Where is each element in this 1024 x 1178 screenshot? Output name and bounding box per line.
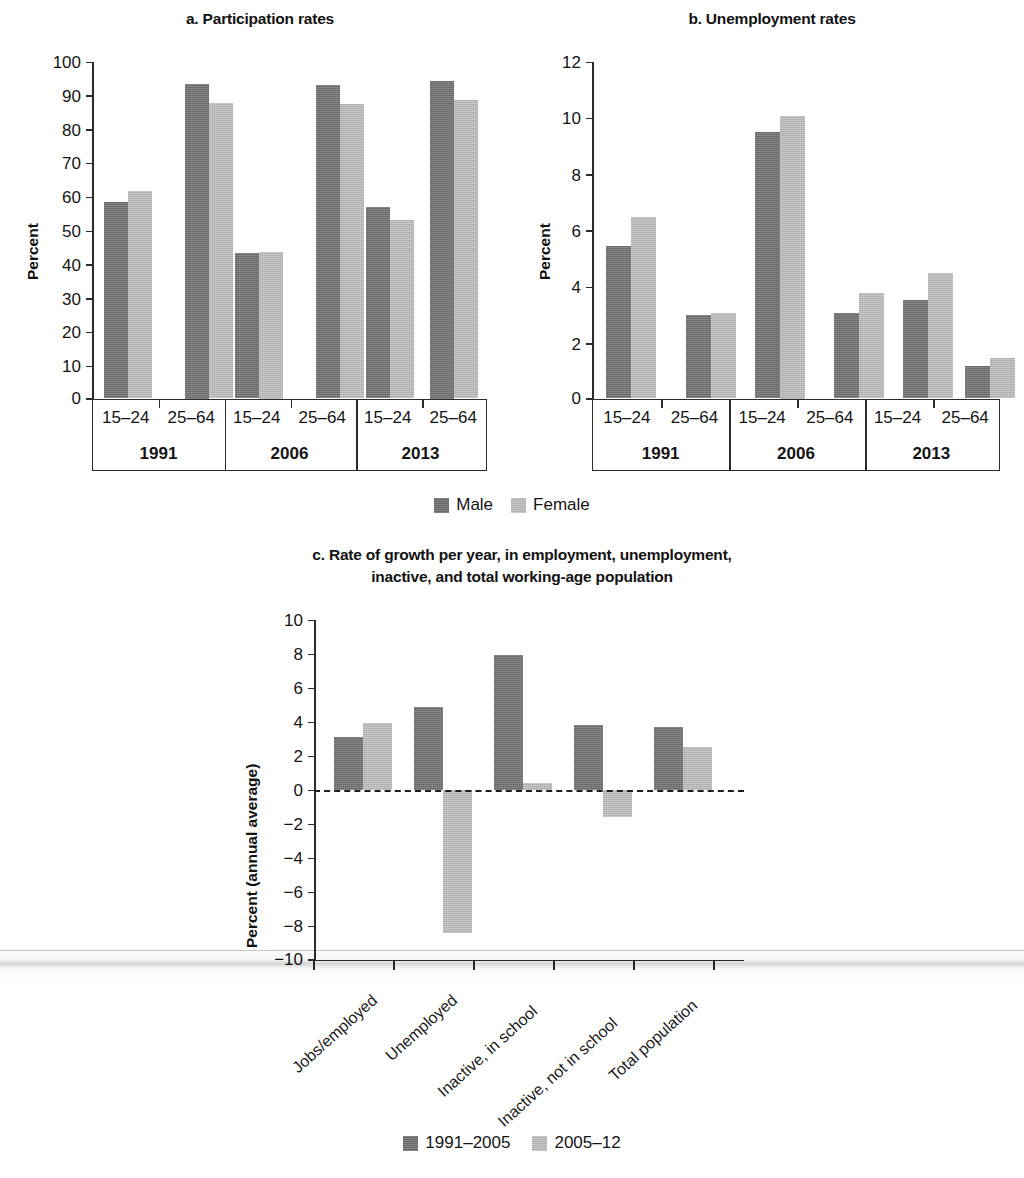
panel-a-category-table: 15–24 25–64 15–24 25–64 15–24 25–64 1991… (92, 399, 487, 471)
panel-a-tick (86, 264, 93, 266)
bar-a-female-2013-15-24 (390, 220, 414, 399)
panel-c-tick (308, 722, 315, 724)
panel-a-group-label: 2013 (355, 437, 486, 471)
panel-c-tick (308, 620, 315, 622)
panel-a-y-tick-label: 30 (36, 291, 81, 308)
panel-c-y-tick-label: −10 (254, 951, 303, 968)
panel-a-y-tick-label: 80 (36, 122, 81, 139)
panel-b-group-label: 1991 (593, 437, 728, 471)
panel-b-tick (586, 62, 593, 64)
legend-swatch-1991-2005-icon (403, 1136, 418, 1151)
scan-artifact-band (0, 946, 1024, 980)
legend-male-female: Male Female (362, 492, 662, 518)
panel-b-y-tick-label: 4 (542, 279, 581, 296)
panel-b-cat-label: 25–64 (796, 399, 864, 437)
panel-rate-of-growth: c. Rate of growth per year, in employmen… (0, 530, 1024, 1178)
panel-b-category-table: 15–24 25–64 15–24 25–64 15–24 25–64 1991… (592, 399, 1000, 471)
panel-b-cat-label: 15–24 (728, 399, 796, 437)
panel-a-cat-label: 15–24 (355, 399, 421, 437)
panel-b-y-tick-label: 10 (542, 110, 581, 127)
panel-a-cat-label: 25–64 (290, 399, 356, 437)
panel-c-tick (308, 688, 315, 690)
bar-c-1991-2005-unemployed (414, 707, 443, 790)
panel-a-y-tick-label: 40 (36, 257, 81, 274)
panel-b-y-tick-label: 6 (542, 223, 581, 240)
panel-c-y-tick-label: −6 (258, 884, 303, 901)
bar-a-male-2013-15-24 (366, 207, 390, 398)
panel-c-x-axis (314, 960, 744, 962)
panel-b-y-tick-label: 2 (542, 336, 581, 353)
panel-a-y-tick-label: 90 (36, 88, 81, 105)
bar-a-male-2006-25-64 (316, 85, 340, 399)
panel-b-cat-label: 15–24 (864, 399, 932, 437)
panel-c-plot-area: 10 8 6 4 2 0 −2 −4 −6 −8 −10 (0, 530, 1024, 1178)
legend-item-1991-2005[interactable]: 1991–2005 (403, 1133, 510, 1153)
panel-b-y-tick-label: 8 (542, 167, 581, 184)
panel-a-subdivider (291, 399, 293, 408)
legend-label-male: Male (456, 495, 493, 515)
bar-b-female-2013-25-64 (990, 358, 1015, 399)
panel-a-tick (86, 197, 93, 199)
legend-swatch-2005-12-icon (532, 1136, 547, 1151)
panel-c-x-tick (393, 960, 395, 970)
panel-b-tick (586, 118, 593, 120)
panel-c-tick (308, 654, 315, 656)
panel-c-y-tick-label: −2 (258, 816, 303, 833)
panel-b-cat-label: 15–24 (593, 399, 661, 437)
panel-b-subdivider (797, 399, 799, 408)
panel-b-subdivider (661, 399, 663, 408)
panel-a-y-tick-label: 70 (36, 155, 81, 172)
bar-c-1991-2005-inactive-in-school (494, 655, 523, 790)
panel-a-tick (86, 95, 93, 97)
bar-a-female-1991-25-64 (209, 103, 233, 399)
panel-participation-rates: a. Participation rates Percent 100 90 80… (0, 0, 512, 480)
panel-b-group-divider (729, 399, 731, 471)
panel-c-y-tick-label: 8 (258, 646, 303, 663)
bar-a-male-1991-25-64 (185, 84, 209, 399)
bar-c-1991-2005-total-population (654, 727, 683, 790)
panel-a-tick (86, 298, 93, 300)
bar-a-female-2006-15-24 (259, 252, 283, 399)
bar-c-2005-12-jobs-employed (363, 723, 392, 790)
bar-b-male-2013-15-24 (903, 300, 928, 399)
bar-a-male-2006-15-24 (235, 253, 259, 399)
panel-c-x-tick (633, 960, 635, 970)
panel-b-tick (586, 343, 593, 345)
panel-c-zero-line (314, 790, 744, 792)
legend-swatch-female-icon (511, 498, 526, 513)
panel-a-group-label: 2006 (224, 437, 355, 471)
panel-a-y-tick-label: 10 (36, 358, 81, 375)
panel-a-tick (86, 163, 93, 165)
bar-b-male-2006-15-24 (755, 132, 780, 398)
panel-b-group-divider (865, 399, 867, 471)
bar-b-female-1991-25-64 (711, 313, 736, 399)
legend-item-2005-12[interactable]: 2005–12 (532, 1133, 620, 1153)
panel-b-tick (586, 230, 593, 232)
bar-c-2005-12-inactive-not-in-school (603, 790, 632, 817)
panel-a-cat-label: 25–64 (421, 399, 487, 437)
panel-c-y-tick-label: 6 (258, 680, 303, 697)
bar-a-female-2013-25-64 (454, 100, 478, 399)
panel-b-tick (586, 174, 593, 176)
panel-a-tick (86, 129, 93, 131)
panel-a-cat-label: 15–24 (93, 399, 159, 437)
panel-b-group-label: 2006 (728, 437, 863, 471)
legend-item-male[interactable]: Male (434, 495, 493, 515)
panel-a-subdivider (159, 399, 161, 408)
bar-c-1991-2005-inactive-not-in-school (574, 725, 603, 791)
panel-c-tick (308, 858, 315, 860)
bar-a-male-2013-25-64 (430, 81, 454, 399)
panel-c-y-tick-label: 10 (258, 612, 303, 629)
legend-item-female[interactable]: Female (511, 495, 590, 515)
legend-label-1991-2005: 1991–2005 (425, 1133, 510, 1153)
legend-label-female: Female (533, 495, 590, 515)
bar-c-2005-12-inactive-in-school (523, 783, 552, 790)
bar-a-female-1991-15-24 (128, 191, 152, 399)
panel-c-tick (308, 926, 315, 928)
bar-b-female-1991-15-24 (631, 217, 656, 399)
panel-a-y-tick-label: 50 (36, 223, 81, 240)
panel-c-x-tick (313, 960, 315, 970)
panel-a-group-label: 1991 (93, 437, 224, 471)
panel-a-group-divider (225, 399, 227, 471)
panel-c-x-tick (713, 960, 715, 970)
